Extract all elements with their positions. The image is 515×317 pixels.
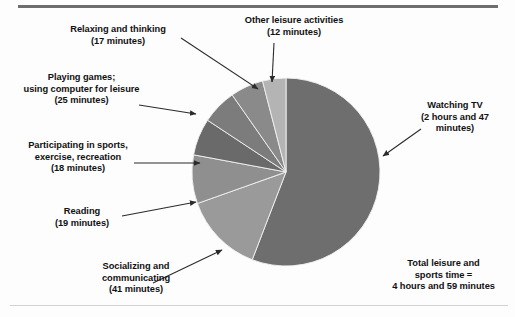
- callout-reading: Reading (19 minutes): [36, 206, 128, 229]
- callout-socializing-line3: (41 minutes): [78, 284, 194, 296]
- callout-relaxing-line2: (17 minutes): [53, 36, 183, 48]
- callout-relaxing-line1: Relaxing and thinking: [53, 24, 183, 36]
- callout-playing-games-line2: using computer for leisure: [9, 84, 154, 96]
- callout-socializing: Socializing and communicating (41 minute…: [78, 261, 194, 296]
- callout-reading-line1: Reading: [36, 206, 128, 218]
- callout-total: Total leisure and sports time = 4 hours …: [375, 258, 512, 293]
- callout-other-leisure-line1: Other leisure activities: [229, 15, 359, 27]
- arrow-relaxing: [181, 38, 258, 89]
- callout-total-line3: 4 hours and 59 minutes: [375, 281, 512, 293]
- callout-sports-line1: Participating in sports,: [14, 140, 142, 152]
- callout-reading-line2: (19 minutes): [36, 218, 128, 230]
- callout-watching-tv-line3: minutes): [399, 123, 511, 135]
- callout-watching-tv-line1: Watching TV: [399, 100, 511, 112]
- figure-canvas: Relaxing and thinking (17 minutes) Playi…: [0, 0, 515, 317]
- arrow-other-leisure: [272, 43, 274, 82]
- callout-relaxing: Relaxing and thinking (17 minutes): [53, 24, 183, 47]
- callout-sports: Participating in sports, exercise, recre…: [14, 140, 142, 175]
- callout-playing-games: Playing games; using computer for leisur…: [9, 72, 154, 107]
- callout-watching-tv: Watching TV (2 hours and 47 minutes): [399, 100, 511, 135]
- callout-playing-games-line1: Playing games;: [9, 72, 154, 84]
- callout-socializing-line2: communicating: [78, 273, 194, 285]
- callout-watching-tv-line2: (2 hours and 47: [399, 112, 511, 124]
- callout-other-leisure: Other leisure activities (12 minutes): [229, 15, 359, 38]
- callout-sports-line3: (18 minutes): [14, 163, 142, 175]
- callout-playing-games-line3: (25 minutes): [9, 95, 154, 107]
- callout-total-line1: Total leisure and: [375, 258, 512, 270]
- callout-total-line2: sports time =: [375, 270, 512, 282]
- callout-socializing-line1: Socializing and: [78, 261, 194, 273]
- callout-other-leisure-line2: (12 minutes): [229, 27, 359, 39]
- arrow-reading: [122, 202, 196, 216]
- callout-sports-line2: exercise, recreation: [14, 152, 142, 164]
